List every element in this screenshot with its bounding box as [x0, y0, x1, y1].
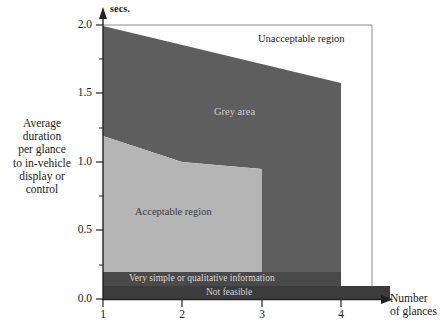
region-label-not-feasible: Not feasible — [206, 287, 252, 297]
y-tick-label-0-5: 0.5 — [62, 223, 92, 235]
x-axis-caption: Number of glances — [390, 292, 443, 318]
region-label-very-simple: Very simple or qualitative information — [129, 273, 275, 283]
y-tick-label-0-0: 0.0 — [62, 292, 92, 304]
y-axis-caption-line-4: to in-vehicle — [2, 157, 82, 170]
x-tick-label-3: 3 — [254, 308, 270, 320]
region-label-unacceptable: Unacceptable region — [258, 33, 345, 44]
region-label-acceptable: Acceptable region — [135, 206, 212, 217]
y-axis-caption-line-2: duration — [2, 130, 82, 143]
x-axis-ticks — [103, 300, 341, 307]
y-axis-caption-line-3: per glance — [2, 143, 82, 156]
region-label-grey-area: Grey area — [214, 106, 255, 117]
y-axis-caption-line-1: Average — [2, 117, 82, 130]
y-axis-caption: Average duration per glance to in-vehicl… — [2, 117, 82, 196]
chart-figure: secs. 2.0 1.5 1.0 0.5 0.0 1 2 3 4 Averag… — [0, 0, 443, 333]
x-axis-caption-line-2: of glances — [390, 305, 443, 318]
y-tick-label-2-0: 2.0 — [62, 18, 92, 30]
x-tick-label-4: 4 — [333, 308, 349, 320]
y-tick-label-1-5: 1.5 — [62, 86, 92, 98]
x-tick-label-2: 2 — [174, 308, 190, 320]
y-axis-arrow — [99, 7, 107, 19]
y-axis-major-ticks — [96, 25, 103, 299]
y-axis-unit-label: secs. — [110, 3, 130, 14]
y-axis-caption-line-5: display or — [2, 170, 82, 183]
x-axis-caption-line-1: Number — [390, 292, 443, 305]
y-axis-caption-line-6: control — [2, 183, 82, 196]
x-tick-label-1: 1 — [95, 308, 111, 320]
